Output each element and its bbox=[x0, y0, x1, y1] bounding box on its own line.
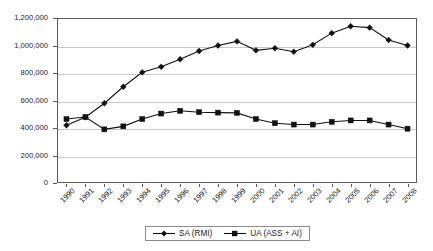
x-axis-tick bbox=[237, 184, 238, 187]
data-point bbox=[291, 49, 297, 55]
data-point bbox=[348, 118, 353, 123]
data-point bbox=[405, 43, 411, 49]
x-axis-tick bbox=[351, 184, 352, 187]
data-point bbox=[310, 122, 315, 127]
x-axis-tick bbox=[408, 184, 409, 187]
x-axis-tick bbox=[104, 184, 105, 187]
data-point bbox=[64, 122, 70, 128]
data-point bbox=[102, 127, 107, 132]
x-axis-tick bbox=[66, 184, 67, 187]
data-point bbox=[83, 115, 88, 120]
legend-item[interactable]: UA (ASS + AI) bbox=[224, 229, 302, 238]
data-point bbox=[405, 126, 410, 131]
data-point bbox=[272, 121, 277, 126]
x-axis-tick bbox=[294, 184, 295, 187]
data-point bbox=[196, 48, 202, 54]
data-point bbox=[253, 117, 258, 122]
y-axis-label: 1,000,000 bbox=[14, 42, 48, 50]
y-axis-label: 200,000 bbox=[21, 152, 48, 160]
data-point bbox=[329, 30, 335, 36]
x-axis-tick bbox=[199, 184, 200, 187]
x-axis-tick bbox=[85, 184, 86, 187]
x-axis-tick bbox=[313, 184, 314, 187]
series-square bbox=[64, 108, 410, 132]
data-point bbox=[367, 25, 373, 31]
data-point bbox=[386, 122, 391, 127]
legend-diamond-icon bbox=[153, 229, 175, 238]
data-point bbox=[159, 111, 164, 116]
data-point bbox=[291, 122, 296, 127]
x-axis-tick bbox=[123, 184, 124, 187]
x-axis-tick bbox=[370, 184, 371, 187]
data-point bbox=[310, 42, 316, 48]
x-axis-tick bbox=[142, 184, 143, 187]
data-point bbox=[367, 118, 372, 123]
data-point bbox=[215, 43, 221, 49]
y-axis-label: 400,000 bbox=[21, 124, 48, 132]
data-point bbox=[329, 119, 334, 124]
data-point bbox=[158, 64, 164, 70]
line-chart: 0200,000400,000600,000800,0001,000,0001,… bbox=[0, 0, 433, 251]
x-axis: 1990199119921993199419951996199719981999… bbox=[57, 184, 417, 230]
series-layer bbox=[57, 18, 417, 183]
data-point bbox=[234, 38, 240, 44]
data-point bbox=[197, 110, 202, 115]
data-point bbox=[386, 37, 392, 43]
data-point bbox=[177, 56, 183, 62]
y-axis-label: 0 bbox=[44, 179, 48, 187]
data-point bbox=[121, 124, 126, 129]
y-axis-label: 600,000 bbox=[21, 97, 48, 105]
x-axis-tick bbox=[256, 184, 257, 187]
data-point bbox=[235, 110, 240, 115]
x-axis-tick bbox=[161, 184, 162, 187]
data-point bbox=[272, 45, 278, 51]
x-axis-tick bbox=[218, 184, 219, 187]
data-point bbox=[253, 47, 259, 53]
x-axis-tick bbox=[332, 184, 333, 187]
x-axis-tick bbox=[275, 184, 276, 187]
legend-square-icon bbox=[224, 229, 246, 238]
y-axis-label: 800,000 bbox=[21, 69, 48, 77]
data-point bbox=[348, 23, 354, 29]
x-axis-tick bbox=[180, 184, 181, 187]
x-axis-tick bbox=[389, 184, 390, 187]
chart-legend: SA (RMI)UA (ASS + AI) bbox=[145, 226, 310, 241]
y-axis-label: 1,200,000 bbox=[14, 14, 48, 22]
legend-label: SA (RMI) bbox=[179, 229, 212, 238]
data-point bbox=[64, 117, 69, 122]
legend-label: UA (ASS + AI) bbox=[250, 229, 302, 238]
legend-item[interactable]: SA (RMI) bbox=[153, 229, 212, 238]
data-point bbox=[216, 110, 221, 115]
data-point bbox=[140, 117, 145, 122]
data-point bbox=[178, 108, 183, 113]
